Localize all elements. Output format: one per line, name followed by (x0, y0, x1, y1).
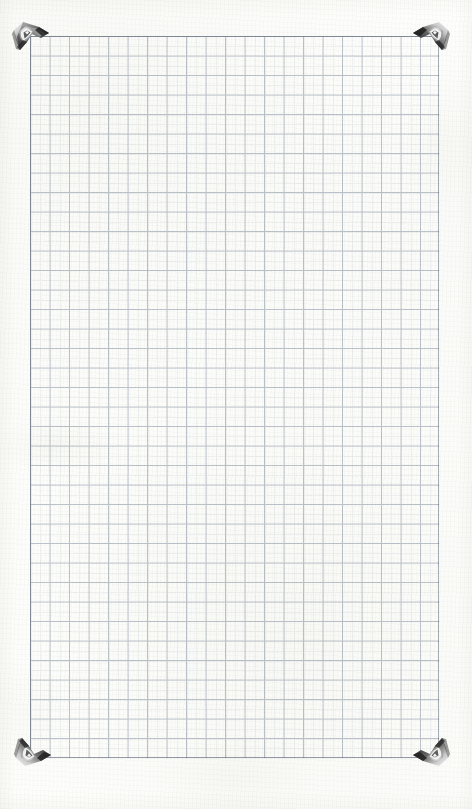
grid-area (30, 36, 439, 758)
corner-clip-bottom-left[interactable] (10, 726, 56, 772)
grid-lines (30, 36, 439, 758)
scanned-graph-paper (0, 0, 472, 809)
corner-clip-top-right[interactable] (408, 16, 454, 62)
corner-clip-top-left[interactable] (8, 16, 54, 62)
corner-clip-bottom-right[interactable] (408, 726, 454, 772)
